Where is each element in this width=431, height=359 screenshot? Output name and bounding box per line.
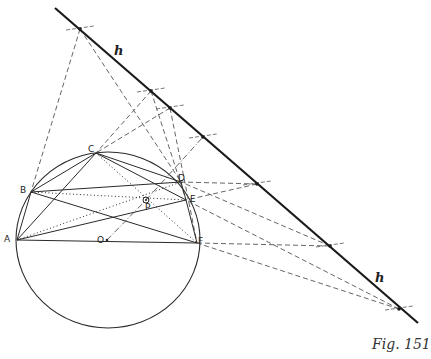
chord-BC	[31, 153, 96, 192]
chord-BD	[31, 182, 181, 192]
point-label-f: F	[198, 237, 203, 246]
intersection-point	[328, 244, 332, 248]
chord-EF	[186, 200, 197, 243]
dashed-construction-lines	[31, 26, 413, 310]
point-label-p: P	[145, 203, 150, 212]
dotted-line-AD	[17, 182, 181, 240]
dashed-line	[197, 243, 399, 309]
figure-caption: Fig. 151	[372, 336, 431, 352]
point-P-dot	[145, 199, 147, 201]
line-h-label-bottom: h	[375, 271, 384, 284]
dashdot-line	[146, 137, 203, 200]
named-points	[106, 197, 149, 241]
intersection-point	[168, 106, 172, 110]
center-point-O	[106, 239, 109, 242]
hexagon-chords	[17, 153, 197, 243]
dashed-line	[186, 200, 399, 309]
line-h-label-top: h	[114, 44, 123, 57]
pascal-construction-diagram	[0, 0, 431, 359]
point-label-a: A	[4, 235, 10, 244]
intersection-point	[149, 89, 153, 93]
point-label-e: E	[190, 195, 196, 204]
point-label-c: C	[88, 145, 94, 154]
point-label-o: O	[97, 236, 104, 245]
intersection-point	[255, 182, 259, 186]
dashed-line	[181, 182, 257, 184]
dashed-line	[197, 243, 330, 246]
dotted-diagonals	[17, 153, 197, 243]
dashed-line	[96, 91, 151, 153]
chord-AC	[17, 153, 96, 240]
point-label-b: B	[20, 186, 26, 195]
intersection-point	[78, 27, 82, 31]
chord-AE	[17, 200, 186, 240]
point-label-d: D	[178, 174, 185, 183]
dashed-line	[181, 182, 330, 246]
intersection-point	[397, 307, 401, 311]
intersection-point	[201, 135, 205, 139]
dashed-line	[186, 184, 257, 200]
dashed-line	[96, 108, 170, 153]
